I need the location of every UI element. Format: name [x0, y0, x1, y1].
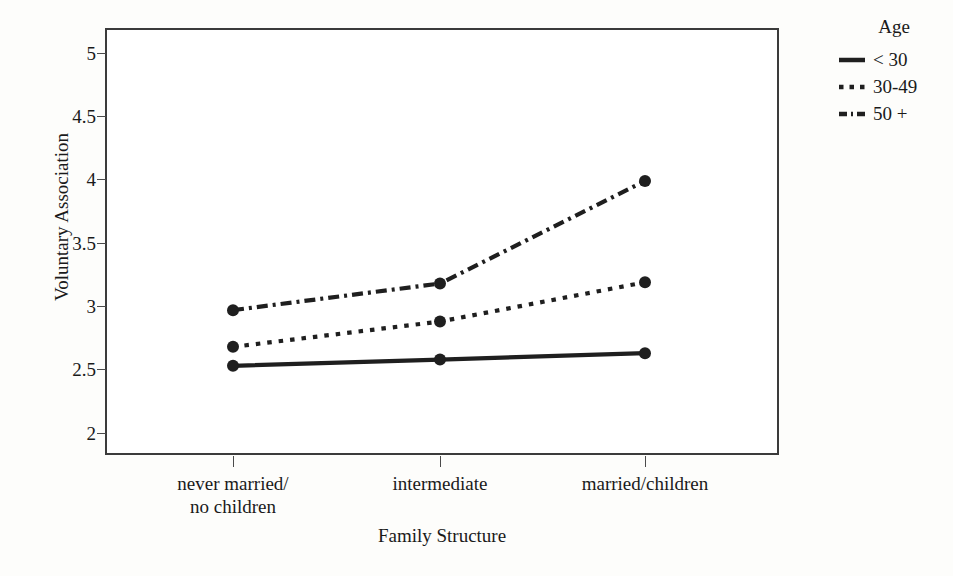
- y-tick-mark: [97, 369, 106, 370]
- y-tick-label: 3.5: [72, 234, 96, 253]
- y-tick-group: 5: [0, 44, 96, 63]
- legend-item-label: 30-49: [873, 76, 917, 98]
- legend-item-50-plus: 50 +: [838, 100, 950, 127]
- y-tick-label: 2.5: [72, 360, 96, 379]
- solid-line-icon: [838, 53, 866, 67]
- y-tick-label: 4.5: [72, 107, 96, 126]
- legend-title: Age: [854, 16, 934, 38]
- y-tick-mark: [97, 179, 106, 180]
- y-tick-label: 5: [87, 44, 97, 63]
- legend: Age < 30 30-49 50 +: [838, 16, 950, 127]
- legend-item-under-30: < 30: [838, 46, 950, 73]
- chart-figure: 5 4.5 4 3.5 3 2.5 2 Voluntary Associatio…: [0, 0, 953, 576]
- y-tick-group: 3: [0, 297, 96, 316]
- x-tick-mark: [645, 456, 646, 467]
- x-tick-label: intermediate: [330, 472, 550, 495]
- y-tick-label: 2: [87, 424, 97, 443]
- x-tick-label: never married/ no children: [123, 472, 343, 518]
- x-axis-title: Family Structure: [105, 525, 779, 547]
- y-tick-group: 4: [0, 170, 96, 189]
- y-axis-title: Voluntary Association: [51, 7, 73, 427]
- y-tick-group: 2: [0, 424, 96, 443]
- y-tick-label: 4: [87, 170, 97, 189]
- x-tick-mark: [440, 456, 441, 467]
- y-tick-group: 4.5: [0, 107, 96, 126]
- legend-item-30-49: 30-49: [838, 73, 950, 100]
- legend-item-label: < 30: [873, 49, 907, 71]
- y-tick-label: 3: [87, 297, 97, 316]
- y-tick-mark: [97, 53, 106, 54]
- y-tick-group: 3.5: [0, 234, 96, 253]
- y-tick-mark: [97, 306, 106, 307]
- y-tick-mark: [97, 243, 106, 244]
- x-tick-label: married/children: [535, 472, 755, 495]
- dash-dot-line-icon: [838, 107, 866, 121]
- y-tick-mark: [97, 116, 106, 117]
- dotted-line-icon: [838, 80, 866, 94]
- y-tick-group: 2.5: [0, 360, 96, 379]
- plot-area: [105, 28, 779, 455]
- y-tick-mark: [97, 433, 106, 434]
- x-tick-mark: [233, 456, 234, 467]
- legend-item-label: 50 +: [873, 103, 907, 125]
